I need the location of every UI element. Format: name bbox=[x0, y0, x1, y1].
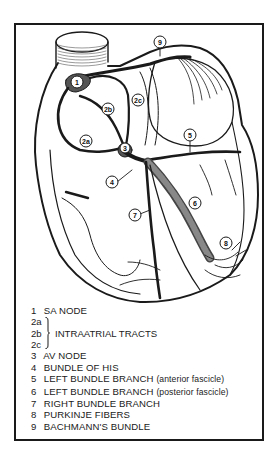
svg-text:2a: 2a bbox=[82, 138, 90, 145]
marker-8: 8 bbox=[220, 237, 232, 249]
superior-vena-cava bbox=[56, 32, 108, 52]
marker-7: 7 bbox=[129, 209, 141, 221]
legend: 1 SA NODE 2a 2b 2c INTRAATRIAL TRACTS 3 … bbox=[31, 305, 263, 432]
marker-6: 6 bbox=[189, 197, 201, 209]
svg-text:4: 4 bbox=[110, 179, 114, 186]
marker-5: 5 bbox=[184, 129, 196, 141]
marker-2b: 2b bbox=[102, 103, 114, 115]
legend-label: AV NODE bbox=[43, 350, 86, 361]
legend-item-3: 3 AV NODE bbox=[31, 350, 263, 361]
legend-label: BACHMANN'S BUNDLE bbox=[44, 421, 150, 432]
marker-3: 3 bbox=[120, 143, 130, 153]
svg-text:2c: 2c bbox=[134, 97, 142, 104]
svg-text:3: 3 bbox=[123, 145, 127, 152]
legend-item-1: 1 SA NODE bbox=[31, 305, 263, 316]
svg-text:2b: 2b bbox=[104, 106, 112, 113]
legend-item-7: 7 RIGHT BUNDLE BRANCH bbox=[31, 398, 263, 409]
legend-item-5: 5 LEFT BUNDLE BRANCH (anterior fascicle) bbox=[31, 373, 263, 385]
legend-label: SA NODE bbox=[44, 305, 87, 316]
legend-group-intraatrial: 2a 2b 2c INTRAATRIAL TRACTS bbox=[31, 316, 263, 350]
legend-item-6: 6 LEFT BUNDLE BRANCH (posterior fascicle… bbox=[31, 386, 263, 398]
brace-icon bbox=[45, 317, 50, 349]
right-bundle-branch bbox=[146, 162, 160, 298]
legend-label: BUNDLE OF HIS bbox=[44, 362, 119, 373]
left-bundle-anterior bbox=[148, 152, 240, 160]
marker-4: 4 bbox=[106, 176, 118, 188]
svg-text:5: 5 bbox=[188, 132, 192, 139]
legend-item-4: 4 BUNDLE OF HIS bbox=[31, 362, 263, 373]
legend-item-9: 9 BACHMANN'S BUNDLE bbox=[31, 421, 263, 432]
svg-text:1: 1 bbox=[75, 79, 79, 86]
legend-qualifier: (anterior fascicle) bbox=[156, 374, 224, 384]
legend-group-codes: 2a 2b 2c bbox=[31, 316, 42, 350]
legend-label: INTRAATRIAL TRACTS bbox=[55, 328, 157, 339]
legend-qualifier: (posterior fascicle) bbox=[156, 387, 228, 397]
legend-label: RIGHT BUNDLE BRANCH bbox=[44, 398, 160, 409]
marker-2a: 2a bbox=[80, 135, 92, 147]
marker-9: 9 bbox=[154, 36, 166, 48]
svg-text:8: 8 bbox=[224, 240, 228, 247]
legend-label: PURKINJE FIBERS bbox=[44, 409, 130, 420]
purkinje-fibers bbox=[120, 160, 246, 285]
marker-2c: 2c bbox=[132, 94, 144, 106]
svg-text:9: 9 bbox=[158, 39, 162, 46]
marker-1: 1 bbox=[71, 76, 83, 88]
legend-label: LEFT BUNDLE BRANCH bbox=[44, 386, 154, 397]
legend-label: LEFT BUNDLE BRANCH bbox=[44, 373, 154, 384]
svg-text:6: 6 bbox=[193, 200, 197, 207]
legend-item-8: 8 PURKINJE FIBERS bbox=[31, 409, 263, 420]
svg-text:7: 7 bbox=[133, 212, 137, 219]
